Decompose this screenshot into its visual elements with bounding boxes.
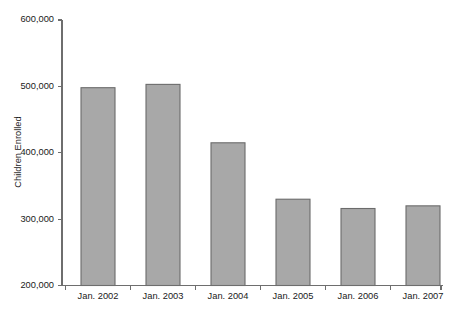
bars-group <box>81 84 440 285</box>
x-axis-tick-label: Jan. 2002 <box>78 291 119 301</box>
bar-chart: 200,000300,000400,000500,000600,000 Jan.… <box>0 0 451 310</box>
y-axis-tick-label: 400,000 <box>20 147 54 157</box>
bar <box>211 143 245 286</box>
chart-canvas: 200,000300,000400,000500,000600,000 Jan.… <box>0 0 451 310</box>
y-axis-tick-label: 500,000 <box>20 81 54 91</box>
y-axis-tick-label: 200,000 <box>20 280 54 290</box>
y-axis-tick-label: 300,000 <box>20 214 54 224</box>
bar <box>341 209 375 286</box>
x-axis-tick-labels: Jan. 2002Jan. 2003Jan. 2004Jan. 2005Jan.… <box>78 291 444 301</box>
y-axis-tick-labels: 200,000300,000400,000500,000600,000 <box>20 14 54 290</box>
y-axis-ticks <box>58 20 62 286</box>
y-axis-tick-label: 600,000 <box>20 14 54 24</box>
x-axis-tick-label: Jan. 2004 <box>208 291 249 301</box>
y-axis-title: Children Enrolled <box>13 116 23 187</box>
bar <box>276 199 310 285</box>
bar <box>81 88 115 286</box>
x-axis-tick-label: Jan. 2003 <box>143 291 184 301</box>
bar <box>406 206 440 286</box>
x-axis-tick-label: Jan. 2005 <box>273 291 314 301</box>
bar <box>146 84 180 285</box>
x-axis-ticks <box>66 286 442 290</box>
x-axis-tick-label: Jan. 2006 <box>338 291 379 301</box>
x-axis-tick-label: Jan. 2007 <box>403 291 444 301</box>
